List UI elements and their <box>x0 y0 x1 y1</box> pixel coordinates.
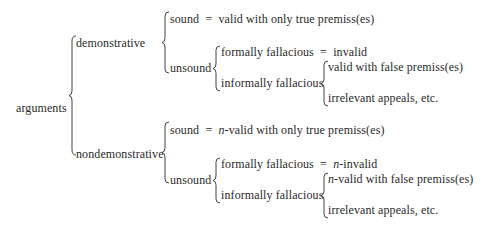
sound-label: sound <box>170 12 199 26</box>
node-nondemonstrative-informal-item-2: irrelevant appeals, etc. <box>328 203 438 217</box>
node-nondemonstrative: nondemonstrative <box>76 147 164 161</box>
brace-nondemonstrative <box>162 121 170 184</box>
node-nondemonstrative-unsound: unsound <box>170 173 211 187</box>
node-demonstrative-sound: sound = valid with only true premiss(es) <box>170 12 374 26</box>
formal-definition: -invalid <box>339 157 377 171</box>
equals-sign: = <box>320 157 327 171</box>
node-demonstrative-informal-item-2: irrelevant appeals, etc. <box>328 91 438 105</box>
node-demonstrative-informal-item-1: valid with false premiss(es) <box>328 60 463 74</box>
equals-sign: = <box>320 45 327 59</box>
equals-sign: = <box>205 123 212 137</box>
item-text: -valid with false premiss(es) <box>334 172 473 186</box>
brace-demonstrative-unsound <box>213 45 221 92</box>
node-demonstrative-formal: formally fallacious = invalid <box>221 45 367 59</box>
sound-definition: -valid with only true premiss(es) <box>225 123 385 137</box>
sound-label: sound <box>170 123 199 137</box>
sound-definition: valid with only true premiss(es) <box>218 12 374 26</box>
node-nondemonstrative-sound: sound = n-valid with only true premiss(e… <box>170 123 385 137</box>
node-demonstrative-informal: informally fallacious <box>221 76 323 90</box>
node-nondemonstrative-formal: formally fallacious = n-invalid <box>221 157 377 171</box>
brace-arguments <box>69 35 77 156</box>
formal-definition: invalid <box>333 45 367 59</box>
node-demonstrative: demonstrative <box>76 36 145 50</box>
node-arguments: arguments <box>16 101 67 115</box>
node-nondemonstrative-informal: informally fallacious <box>221 188 323 202</box>
brace-nondemonstrative-unsound <box>213 157 221 204</box>
brace-demonstrative <box>162 11 170 74</box>
formal-label: formally fallacious <box>221 157 314 171</box>
formal-label: formally fallacious <box>221 45 314 59</box>
node-nondemonstrative-informal-item-1: n-valid with false premiss(es) <box>328 172 473 186</box>
equals-sign: = <box>205 12 212 26</box>
node-demonstrative-unsound: unsound <box>170 61 211 75</box>
